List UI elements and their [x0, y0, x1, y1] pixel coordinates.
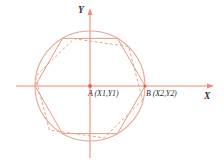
- point-a-marker: [88, 84, 92, 88]
- point-b-label: B (X2,Y2): [146, 90, 177, 98]
- point-b-marker: [143, 84, 146, 87]
- diagram-canvas: [0, 0, 224, 166]
- y-axis-arrowhead: [88, 8, 93, 15]
- x-axis-label: X: [204, 92, 210, 102]
- x-axis-arrowhead: [207, 84, 214, 89]
- point-a-label: A (X1,Y1): [88, 90, 119, 98]
- y-axis-label: Y: [78, 6, 84, 16]
- geometry-diagram: Y X A (X1,Y1) B (X2,Y2): [0, 0, 224, 166]
